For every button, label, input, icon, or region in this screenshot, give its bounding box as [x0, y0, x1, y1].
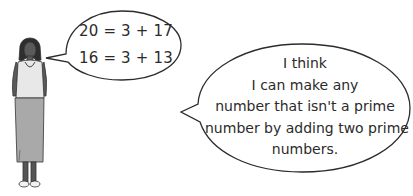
equation-line-1: 20 = 3 + 17 — [78, 22, 174, 40]
speech-text: I think I can make any number that isn't… — [205, 53, 405, 161]
speech-line-3: number that isn't a prime — [205, 96, 405, 118]
speech-line-5: numbers. — [205, 139, 405, 161]
speech-line-4: number by adding two prime — [205, 118, 405, 140]
speech-line-1: I think — [205, 53, 405, 75]
speech-line-2: I can make any — [205, 75, 405, 97]
equation-line-2: 16 = 3 + 13 — [78, 49, 174, 67]
woman-figure — [12, 38, 46, 187]
